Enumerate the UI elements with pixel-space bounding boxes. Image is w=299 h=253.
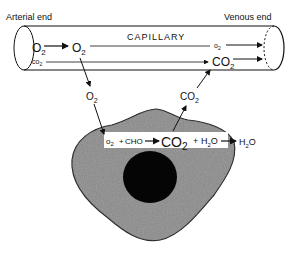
- o2-diffusing-label: O2: [86, 91, 98, 104]
- venous-end-label: Venous end: [224, 12, 272, 22]
- co2-venous-label: CO2: [212, 55, 235, 71]
- reaction-cho: CHO: [125, 137, 143, 146]
- co2-arterial-label: co2: [32, 58, 42, 67]
- co2-diffusing-label: CO2: [180, 91, 199, 104]
- o2-capillary-label: O2: [72, 41, 86, 57]
- capillary-label: CAPILLARY: [127, 32, 185, 42]
- arterial-end-label: Arterial end: [6, 12, 52, 22]
- cell-nucleus: [123, 151, 177, 203]
- h2o-out-label: H2O: [239, 137, 256, 149]
- capillary-cell-diagram: Arterial end Venous end CAPILLARY O2 O2 …: [0, 0, 299, 253]
- co2-flow-row: co2 CO2: [32, 55, 262, 71]
- o2-arterial-label: O2: [32, 41, 46, 57]
- reaction-plus-2: +: [193, 136, 198, 146]
- reaction-plus-1: +: [119, 137, 124, 146]
- o2-venous-label: o2: [214, 42, 221, 51]
- tissue-cell: [72, 109, 235, 241]
